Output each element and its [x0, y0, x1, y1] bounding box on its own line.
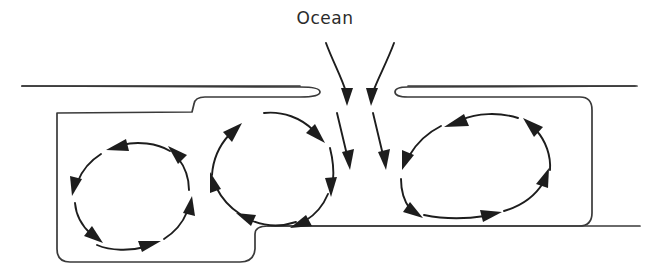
middle-gyre-bottom-arrow-shaft: [250, 220, 296, 225]
left-gyre-upper-left-arrow-head: [70, 176, 82, 196]
left-gyre-top-arrow-head: [106, 139, 129, 151]
right-gyre-top-arrow-head: [444, 114, 469, 127]
right-gyre-bottom-arrow-shaft: [424, 215, 485, 218]
middle-gyre-right-arrow-head: [325, 177, 337, 197]
ocean-circulation-figure: Ocean: [0, 0, 650, 280]
strait-inflow-arrows: [326, 43, 394, 170]
middle-gyre-right-arrow-shaft: [330, 148, 333, 181]
right-gyre-top-arrow-shaft: [461, 114, 518, 120]
right-gyre-upper-left-arrow-shaft: [409, 126, 441, 156]
middle-gyre-lower-left-arrow-head: [210, 172, 221, 193]
strait-inflow-right-arrow-shaft: [373, 43, 394, 92]
middle-gyre-arrows: [210, 113, 337, 228]
middle-gyre-lower-right-arrow-shaft: [305, 194, 328, 221]
middle-gyre-lower-right-arrow-head: [290, 215, 312, 228]
left-gyre-lower-right-arrow-head: [183, 196, 195, 216]
middle-gyre-bottom-arrow-head: [236, 213, 256, 226]
strait-downflow-right-arrow-shaft: [373, 113, 383, 155]
strait-downflow-right-arrow-head: [378, 149, 390, 170]
left-gyre-bottom-arrow-shaft: [97, 245, 145, 250]
strait-downflow-left-arrow-shaft: [337, 113, 347, 155]
right-gyre-arrows: [401, 114, 550, 222]
strait-downflow-left-arrow-head: [342, 149, 354, 170]
left-gyre-upper-right-arrow-shaft: [178, 158, 189, 190]
left-gyre-lower-left-arrow-shaft: [75, 203, 91, 234]
strait-inflow-right-arrow-head: [366, 88, 378, 106]
middle-gyre-lower-left-arrow-shaft: [216, 187, 240, 214]
diagram-canvas: [0, 0, 650, 280]
left-gyre-arrows: [70, 139, 195, 252]
strait-inflow-left-arrow-shaft: [326, 43, 346, 92]
left-gyre-top-arrow-shaft: [122, 143, 170, 151]
right-gyre-lower-right-arrow-head: [536, 168, 549, 188]
middle-gyre-top-arrow-shaft: [264, 113, 313, 130]
left-gyre-upper-right-arrow-head: [168, 146, 187, 164]
left-gyre-upper-left-arrow-shaft: [78, 154, 101, 181]
right-gyre-upper-left-arrow-head: [402, 150, 414, 170]
left-gyre-bottom-arrow-head: [138, 241, 161, 252]
left-gyre-lower-right-arrow-shaft: [164, 212, 187, 239]
right-gyre-upper-right-arrow-shaft: [536, 130, 550, 170]
strait-inflow-left-arrow-head: [341, 88, 353, 106]
right-gyre-lower-right-arrow-shaft: [504, 183, 543, 211]
middle-gyre-upper-left-arrow-shaft: [212, 135, 229, 175]
right-gyre-bottom-arrow-head: [480, 210, 502, 222]
